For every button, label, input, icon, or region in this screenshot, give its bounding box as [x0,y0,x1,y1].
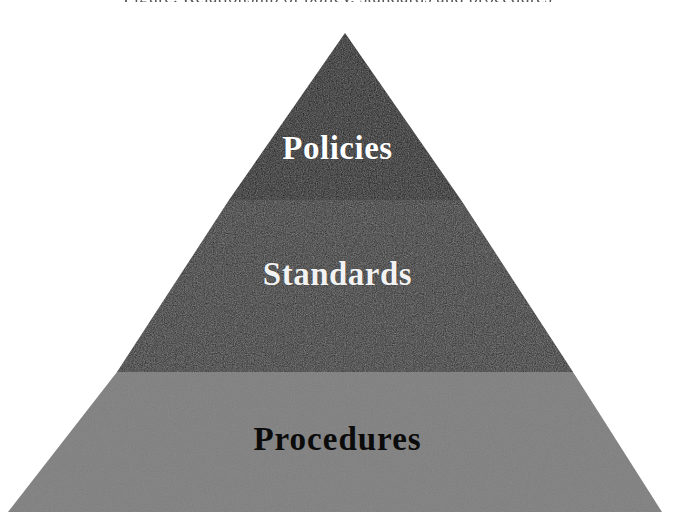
pyramid-tier-procedures [8,372,662,512]
pyramid-tier-policies [229,33,461,200]
pyramid-diagram: Figure: Relationship of policy, standard… [0,0,675,521]
pyramid-graphic [0,0,675,521]
pyramid-tier-standards [117,200,573,372]
